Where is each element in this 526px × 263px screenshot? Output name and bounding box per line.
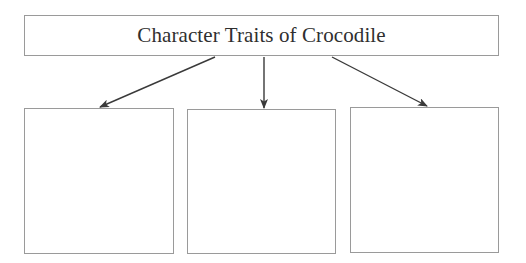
trait-box-1[interactable] — [24, 108, 174, 254]
trait-box-2[interactable] — [187, 109, 336, 254]
arrow-left — [100, 57, 215, 107]
diagram-title: Character Traits of Crocodile — [137, 23, 385, 48]
arrow-right — [332, 57, 427, 106]
title-box: Character Traits of Crocodile — [24, 15, 499, 56]
trait-box-3[interactable] — [350, 107, 499, 253]
